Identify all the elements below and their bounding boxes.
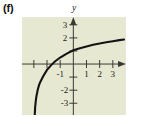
x-axis xyxy=(22,61,126,67)
plot-area: -1 1 2 3 3 2 -2 -3 x xyxy=(22,17,126,115)
x-tick-label-2: 2 xyxy=(97,69,102,79)
y-tick-label-3: 3 xyxy=(63,20,68,30)
figure-panel-f: (f) -1 1 2 3 3 2 -2 xyxy=(0,0,143,128)
y-tick-label-neg3: -3 xyxy=(61,98,69,108)
y-axis-arrowhead xyxy=(70,17,76,25)
x-tick-label-1: 1 xyxy=(84,69,89,79)
x-axis-arrowhead xyxy=(118,61,126,67)
y-axis-label: y xyxy=(71,3,77,13)
x-tick-label-3: 3 xyxy=(111,69,116,79)
y-tick-label-2: 2 xyxy=(63,33,68,43)
y-axis xyxy=(70,17,76,115)
y-axis-label-wrap: y xyxy=(66,0,86,18)
y-tick-label-neg2: -2 xyxy=(61,85,69,95)
part-label: (f) xyxy=(3,2,13,14)
graph-svg: -1 1 2 3 3 2 -2 -3 x xyxy=(22,17,126,115)
x-tick-label-neg1: -1 xyxy=(56,69,64,79)
